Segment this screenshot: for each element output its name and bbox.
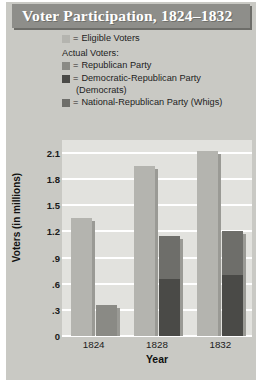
legend-label-national-republican: National-Republican Party (Whigs) xyxy=(81,97,222,109)
bar-segment xyxy=(96,305,117,336)
legend-equals: = xyxy=(73,73,78,85)
x-axis-title: Year xyxy=(62,353,252,365)
legend-label-republican: Republican Party xyxy=(81,60,151,72)
legend-equals: = xyxy=(73,97,78,109)
legend-label-democratic-republican: Democratic-Republican Party xyxy=(81,73,200,85)
y-axis-tick-label: .6 xyxy=(52,278,60,289)
bar-segment xyxy=(222,231,243,275)
y-axis-tick-label: 1.2 xyxy=(47,226,60,237)
bar-segment xyxy=(159,236,180,280)
y-axis-ticks: 0.3.6.91.21.51.82.1 xyxy=(36,140,60,336)
bar-shadow xyxy=(155,169,158,336)
y-axis-tick-label: 0 xyxy=(55,331,60,342)
y-axis-tick-label: .9 xyxy=(52,252,60,263)
legend-equals: = xyxy=(73,33,78,45)
gridline xyxy=(62,152,252,154)
bar-eligible-voters xyxy=(134,166,155,336)
x-axis-tick-label: 1832 xyxy=(209,339,231,350)
dark-gray-swatch xyxy=(62,75,70,83)
light-gray-swatch xyxy=(62,35,70,43)
y-axis-tick-label: 1.5 xyxy=(47,200,60,211)
bar-eligible-voters xyxy=(197,151,218,336)
y-axis-tick-label: 1.8 xyxy=(47,174,60,185)
bar-shadow xyxy=(218,154,221,336)
y-axis-title: Voters (in millions) xyxy=(11,158,22,278)
legend-equals: = xyxy=(73,60,78,72)
bar-eligible-voters xyxy=(71,218,92,336)
legend-item-eligible: = Eligible Voters xyxy=(62,33,254,45)
y-axis-tick-label: 2.1 xyxy=(47,148,60,159)
mid-dark-gray-swatch xyxy=(62,99,70,107)
medium-gray-swatch xyxy=(62,62,70,70)
bar-shadow xyxy=(180,239,183,336)
bar-segment xyxy=(159,279,180,336)
chart-legend: = Eligible Voters Actual Voters: = Repub… xyxy=(62,33,254,110)
legend-label-eligible: Eligible Voters xyxy=(81,33,139,45)
legend-label-democrats-cont: (Democrats) xyxy=(62,85,254,97)
page-title: Voter Participation, 1824–1832 xyxy=(12,7,233,25)
plot-area xyxy=(62,140,252,336)
legend-actual-heading: Actual Voters: xyxy=(62,48,254,60)
chart-title-banner: Voter Participation, 1824–1832 xyxy=(12,4,250,28)
y-axis-tick-label: .3 xyxy=(52,304,60,315)
legend-item-democratic-republican: = Democratic-Republican Party xyxy=(62,73,254,85)
legend-item-republican: = Republican Party xyxy=(62,60,254,72)
bar-segment xyxy=(222,275,243,336)
x-axis-tick-label: 1828 xyxy=(146,339,168,350)
bar-shadow xyxy=(92,221,95,336)
plot-wrapper xyxy=(62,140,252,336)
x-axis-ticks: 182418281832 xyxy=(62,339,252,353)
legend-item-national-republican: = National-Republican Party (Whigs) xyxy=(62,97,254,109)
bar-shadow xyxy=(117,308,120,336)
x-axis-tick-label: 1824 xyxy=(83,339,105,350)
chart-figure: Voter Participation, 1824–1832 = Eligibl… xyxy=(0,0,262,388)
bar-shadow xyxy=(243,234,246,336)
